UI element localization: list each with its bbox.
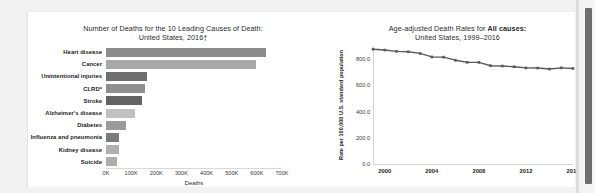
bar-x-tick: 400K	[200, 170, 213, 176]
bar	[106, 145, 119, 154]
line-plot-area: 0.0200.0400.0600.0800.0 2000200420082012…	[373, 46, 573, 164]
bar-x-tick: 500K	[225, 170, 238, 176]
line-x-tick: 2004	[425, 168, 438, 174]
line-marker	[536, 67, 539, 70]
line-x-tick: 2008	[472, 168, 485, 174]
bar-row: Unintentional injuries	[106, 70, 282, 82]
bar	[106, 84, 145, 93]
line-marker	[501, 65, 504, 68]
bar-category-label: Stroke	[83, 98, 102, 104]
line-y-tick: 400.0	[356, 109, 370, 115]
line-marker	[525, 67, 528, 70]
line-marker	[431, 56, 434, 59]
line-marker	[466, 61, 469, 64]
line-chart-title: Age-adjusted Death Rates for All causes:…	[330, 24, 585, 42]
line-y-tick: 0.0	[362, 161, 370, 167]
line-chart-title-line2: United States, 1999–2016	[415, 33, 500, 42]
line-marker	[572, 67, 575, 70]
screenshot-viewport: Number of Deaths for the 10 Leading Caus…	[0, 0, 595, 193]
bar-x-tick: 600K	[250, 170, 263, 176]
bar-row: Diabetes	[106, 119, 282, 131]
line-y-axis-label: Rate per 100,000 U.S. standard populatio…	[338, 46, 350, 164]
death-rate-series	[373, 46, 573, 164]
bar-category-label: CLRD*	[83, 86, 102, 92]
bar-row: Kidney disease	[106, 144, 282, 156]
bar-category-label: Cancer	[82, 61, 102, 67]
line-marker	[478, 61, 481, 64]
bar-row: Heart disease	[106, 46, 282, 58]
line-x-tick: 2012	[519, 168, 532, 174]
bar-chart-title: Number of Deaths for the 10 Leading Caus…	[38, 24, 308, 42]
bar-x-tick: 100K	[125, 170, 138, 176]
line-x-axis-line	[373, 164, 573, 165]
bar	[106, 72, 147, 81]
line-y-tick: 600.0	[356, 82, 370, 88]
line-marker	[383, 49, 386, 52]
bar-chart-title-line1: Number of Deaths for the 10 Leading Caus…	[83, 24, 263, 33]
bar-row: CLRD*	[106, 83, 282, 95]
age-adjusted-death-rates-line-chart: Age-adjusted Death Rates for All causes:…	[310, 18, 595, 188]
line-marker	[407, 50, 410, 53]
bar	[106, 60, 256, 69]
line-marker	[454, 59, 457, 62]
chart-card: Number of Deaths for the 10 Leading Caus…	[27, 11, 575, 187]
line-x-tick-labels: 20002004200820122016	[373, 168, 573, 178]
line-marker	[442, 56, 445, 59]
vertical-scrollbar-thumb[interactable]	[585, 8, 592, 184]
bar-category-label: Diabetes	[77, 122, 102, 128]
line-marker	[548, 68, 551, 71]
line-marker	[513, 66, 516, 69]
bar	[106, 96, 142, 105]
bar-category-label: Heart disease	[63, 49, 102, 55]
bar-x-axis-line	[106, 168, 282, 169]
bar-category-label: Suicide	[81, 159, 102, 165]
bar	[106, 109, 135, 118]
line-marker	[395, 50, 398, 53]
line-y-tick: 800.0	[356, 56, 370, 62]
line-marker	[419, 52, 422, 55]
bar	[106, 48, 266, 57]
bar-x-axis-label: Deaths	[106, 180, 282, 186]
bar-category-label: Influenza and pneumonia	[31, 134, 102, 140]
leading-causes-bar-chart: Number of Deaths for the 10 Leading Caus…	[28, 18, 318, 188]
bar-row: Suicide	[106, 156, 282, 168]
line-marker	[372, 48, 375, 51]
line-marker	[560, 67, 563, 70]
bar-category-label: Kidney disease	[59, 147, 102, 153]
bar-x-tick: 300K	[175, 170, 188, 176]
bar	[106, 121, 126, 130]
line-marker	[489, 64, 492, 67]
bar	[106, 157, 117, 166]
bar-row: Stroke	[106, 95, 282, 107]
vertical-scrollbar-track[interactable]	[579, 0, 595, 193]
line-y-tick: 200.0	[356, 135, 370, 141]
bar-plot-area: Heart diseaseCancerUnintentional injurie…	[106, 46, 282, 168]
bar-category-label: Unintentional injuries	[41, 73, 102, 79]
line-chart-title-prefix: Age-adjusted Death Rates for	[389, 24, 488, 33]
line-chart-title-bold: All causes:	[488, 24, 527, 33]
bar-series: Heart diseaseCancerUnintentional injurie…	[106, 46, 282, 168]
bar-x-tick: 700K	[275, 170, 288, 176]
bar-x-tick: 0K	[103, 170, 110, 176]
bar-row: Alzheimer's disease	[106, 107, 282, 119]
line-x-tick: 2000	[378, 168, 391, 174]
bar	[106, 133, 119, 142]
bar-row: Influenza and pneumonia	[106, 131, 282, 143]
line-path	[373, 49, 573, 69]
bar-x-tick: 200K	[150, 170, 163, 176]
bar-category-label: Alzheimer's disease	[45, 110, 102, 116]
bar-chart-title-line2: United States, 2016†	[139, 33, 208, 42]
bar-x-tick-labels: 0K100K200K300K400K500K600K700K	[106, 170, 282, 180]
bar-row: Cancer	[106, 58, 282, 70]
